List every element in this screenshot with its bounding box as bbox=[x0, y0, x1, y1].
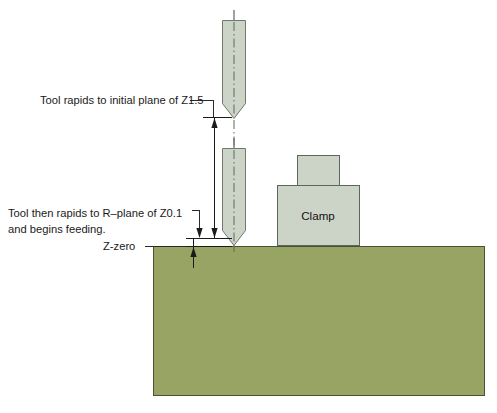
tool-lower bbox=[223, 138, 246, 252]
z-zero-label: Z-zero bbox=[103, 240, 135, 252]
workpiece-block bbox=[154, 247, 485, 396]
initial-plane-arrowhead-up bbox=[211, 118, 217, 128]
r-plane-arrowhead-down bbox=[196, 228, 202, 238]
tool-upper bbox=[223, 10, 246, 119]
clamp-label: Clamp bbox=[301, 209, 335, 222]
r-plane-annotation-line1: Tool then rapids to R–plane of Z0.1 bbox=[8, 207, 182, 219]
initial-plane-arrowhead-down bbox=[211, 228, 217, 238]
r-plane-leader bbox=[192, 211, 200, 229]
drilling-cycle-diagram: Clamp Z-zero bbox=[0, 0, 497, 413]
clamp-assembly: Clamp bbox=[278, 156, 360, 246]
r-plane-annotation-line2: and begins feeding. bbox=[8, 223, 106, 235]
initial-plane-annotation: Tool rapids to initial plane of Z1.5 bbox=[40, 94, 204, 106]
clamp-upper-block bbox=[298, 156, 340, 186]
diagram-canvas: Clamp Z-zero bbox=[0, 0, 497, 413]
